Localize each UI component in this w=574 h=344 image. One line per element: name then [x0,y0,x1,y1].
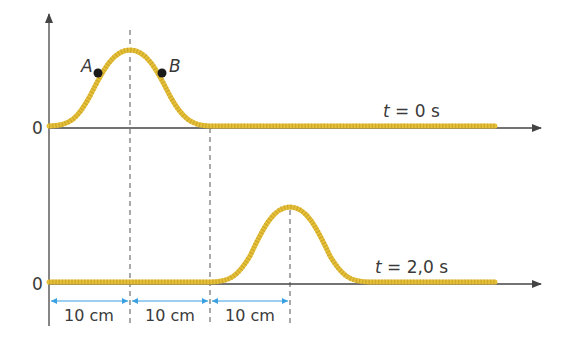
dimension-label-1: 10 cm [64,306,114,325]
top-time-label: t = 0 s [383,101,440,121]
dimension-label-2: 10 cm [145,306,195,325]
point-b-marker [158,69,167,78]
pulse-diagram: A B 0 0 t = 0 s t = 2,0 s 10 cm 10 cm 10… [0,0,574,344]
point-a-label: A [80,56,93,76]
bottom-time-label: t = 2,0 s [375,257,448,277]
bottom-zero-label: 0 [32,274,43,294]
point-a-marker [94,69,103,78]
top-zero-label: 0 [32,118,43,138]
dimension-label-3: 10 cm [225,306,275,325]
point-b-label: B [169,56,181,76]
